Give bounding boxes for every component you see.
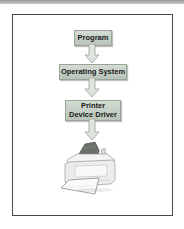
node-program-label: Program bbox=[78, 34, 109, 43]
node-printer-device-driver: Printer Device Driver bbox=[65, 100, 121, 121]
arrow-down-icon bbox=[84, 119, 100, 141]
arrow-down-icon bbox=[84, 44, 100, 64]
node-printer-driver-label-line2: Device Driver bbox=[69, 111, 117, 120]
printer-icon bbox=[55, 140, 125, 196]
node-operating-system-label: Operating System bbox=[61, 68, 125, 77]
top-bar bbox=[0, 0, 184, 4]
arrow-down-icon bbox=[84, 78, 100, 98]
